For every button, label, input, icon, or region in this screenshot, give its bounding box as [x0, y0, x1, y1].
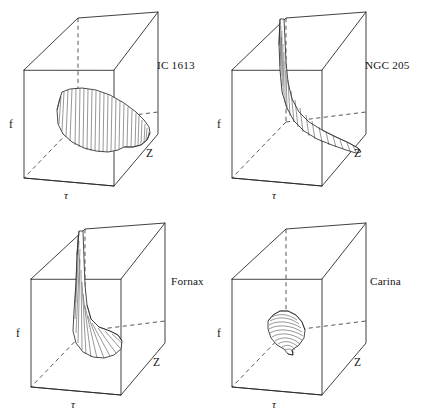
panel-ic1613: f τ Z IC 1613 [0, 0, 212, 207]
figure-root: f τ Z IC 1613 [0, 0, 425, 415]
panel-name-carina: Carina [370, 275, 401, 287]
panel-name-fornax: Fornax [171, 275, 204, 287]
panel-ngc205: f τ Z NGC 205 [212, 0, 425, 207]
axis-label-f-fornax: f [16, 327, 20, 339]
axis-label-f-carina: f [217, 327, 221, 339]
panel-ngc205-plot: f τ Z [212, 0, 425, 207]
box-hidden-edges-ngc205 [232, 18, 366, 178]
axis-label-f-ic1613: f [9, 118, 13, 130]
panel-carina-plot: f τ Z [212, 207, 425, 415]
box-hidden-edges-carina [232, 229, 366, 387]
panel-ic1613-plot: f τ Z [0, 0, 212, 207]
box-edges-ngc205 [232, 12, 366, 186]
panel-carina: f τ Z Carina [212, 207, 425, 415]
box-edges-carina [232, 223, 366, 395]
figure-caption [0, 404, 425, 415]
axis-label-tau-ngc205: τ [272, 189, 277, 201]
panel-name-ngc205: NGC 205 [365, 59, 410, 71]
axis-label-z-ic1613: Z [146, 147, 153, 159]
box-edges-fornax [31, 223, 165, 395]
panel-fornax-plot: f τ Z [0, 207, 212, 415]
panel-fornax: f τ Z Fornax [0, 207, 212, 415]
surface-ngc205 [279, 19, 361, 153]
axis-label-tau-ic1613: τ [64, 189, 69, 201]
box-hidden-edges-fornax [31, 229, 165, 387]
axis-label-z-carina: Z [354, 356, 361, 368]
axis-label-z-fornax: Z [153, 356, 160, 368]
surface-carina [268, 311, 305, 355]
surface-fornax [73, 231, 122, 358]
axis-label-f-ngc205: f [217, 118, 221, 130]
surface-ic1613 [57, 88, 150, 152]
panel-name-ic1613: IC 1613 [157, 59, 195, 71]
axis-label-z-ngc205: Z [354, 147, 361, 159]
